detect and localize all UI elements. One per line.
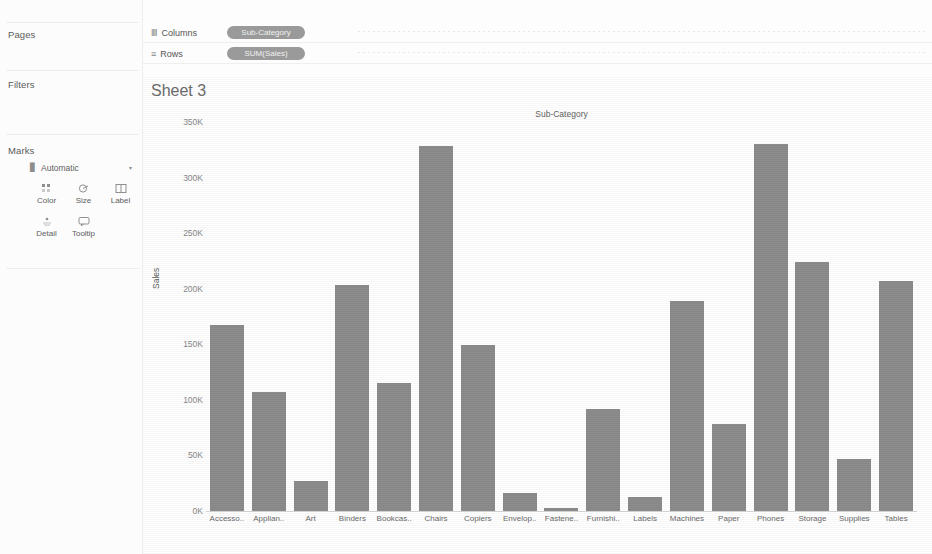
x-axis-label[interactable]: Chairs	[415, 514, 457, 523]
marks-card-title: Marks	[0, 138, 143, 156]
bar-slot[interactable]	[206, 122, 248, 511]
bar-slot[interactable]	[290, 122, 332, 511]
marks-tooltip-label: Tooltip	[72, 229, 95, 239]
bar-slot[interactable]	[331, 122, 373, 511]
x-axis-label[interactable]: Applian..	[248, 514, 290, 523]
y-axis-tick: 350K	[173, 117, 203, 127]
color-icon	[41, 181, 52, 196]
pages-card-title: Pages	[0, 22, 143, 40]
bar[interactable]	[252, 392, 286, 512]
y-axis-title: Sales	[151, 268, 161, 289]
bar-slot[interactable]	[415, 122, 457, 511]
bar-series	[206, 122, 917, 511]
x-axis-label[interactable]: Copiers	[457, 514, 499, 523]
chevron-down-icon: ▾	[129, 164, 134, 171]
x-axis-label[interactable]: Binders	[331, 514, 373, 523]
x-axis-label[interactable]: Furnishi..	[582, 514, 624, 523]
y-axis-tick: 50K	[173, 450, 203, 460]
x-axis-label[interactable]: Supplies	[833, 514, 875, 523]
label-icon	[115, 181, 127, 196]
x-axis-label[interactable]: Bookcas..	[373, 514, 415, 523]
bar[interactable]	[419, 146, 453, 511]
divider	[6, 70, 139, 71]
mark-type-dropdown[interactable]: ▊ Automatic ▾	[30, 160, 134, 175]
bar[interactable]	[795, 262, 829, 511]
x-axis-label[interactable]: Accesso..	[206, 514, 248, 523]
y-axis: 0K50K100K150K200K250K300K350K	[161, 122, 203, 511]
rows-shelf-label: ≡ Rows	[143, 49, 227, 59]
detail-icon	[41, 214, 53, 229]
tableau-worksheet: Pages Filters Marks ▊ Automatic ▾ Color	[0, 0, 932, 554]
shelf-dotted-rule	[358, 31, 926, 32]
bar[interactable]	[837, 459, 871, 511]
bar[interactable]	[628, 497, 662, 511]
plot-area: Accesso..Applian..ArtBindersBookcas..Cha…	[206, 122, 917, 511]
bar[interactable]	[377, 383, 411, 511]
bar-slot[interactable]	[457, 122, 499, 511]
pill-sub-category[interactable]: Sub-Category	[227, 26, 305, 39]
bar-slot[interactable]	[792, 122, 834, 511]
x-axis-label[interactable]: Labels	[624, 514, 666, 523]
bar[interactable]	[294, 481, 328, 511]
bar-slot[interactable]	[582, 122, 624, 511]
marks-row: Detail Tooltip	[28, 211, 140, 244]
bar[interactable]	[503, 493, 537, 511]
y-axis-tick: 0K	[173, 506, 203, 516]
x-axis-label[interactable]: Storage	[792, 514, 834, 523]
bar-slot[interactable]	[750, 122, 792, 511]
rows-icon: ≡	[151, 49, 155, 59]
bar[interactable]	[670, 301, 704, 511]
bar-slot[interactable]	[373, 122, 415, 511]
bar[interactable]	[586, 409, 620, 511]
divider	[6, 268, 139, 269]
columns-shelf[interactable]: ‖‖ Columns Sub-Category	[143, 22, 932, 43]
left-panel: Pages Filters Marks ▊ Automatic ▾ Color	[0, 0, 143, 554]
x-axis-label[interactable]: Phones	[750, 514, 792, 523]
x-axis-label[interactable]: Art	[290, 514, 332, 523]
bar-slot[interactable]	[624, 122, 666, 511]
y-axis-tick: 100K	[173, 395, 203, 405]
bar-slot[interactable]	[875, 122, 917, 511]
bar[interactable]	[754, 144, 788, 511]
bar-slot[interactable]	[666, 122, 708, 511]
bar[interactable]	[461, 345, 495, 511]
marks-tooltip-button[interactable]: Tooltip	[65, 211, 102, 244]
bar[interactable]	[335, 285, 369, 511]
columns-icon: ‖‖	[151, 28, 156, 38]
divider	[6, 134, 139, 135]
bar-slot[interactable]	[499, 122, 541, 511]
marks-detail-button[interactable]: Detail	[28, 211, 65, 244]
bar-slot[interactable]	[541, 122, 583, 511]
shelf-divider	[143, 63, 932, 64]
y-axis-tick: 300K	[173, 173, 203, 183]
bar-slot[interactable]	[248, 122, 290, 511]
x-axis-label[interactable]: Fastene..	[541, 514, 583, 523]
pill-sum-sales[interactable]: SUM(Sales)	[227, 47, 305, 60]
bar-slot[interactable]	[708, 122, 750, 511]
x-axis-label[interactable]: Machines	[666, 514, 708, 523]
marks-label-button[interactable]: Label	[102, 178, 139, 211]
columns-shelf-label: ‖‖ Columns	[143, 28, 227, 38]
x-axis-label[interactable]: Paper	[708, 514, 750, 523]
marks-color-button[interactable]: Color	[28, 178, 65, 211]
marks-size-button[interactable]: Size	[65, 178, 102, 211]
rows-shelf[interactable]: ≡ Rows SUM(Sales)	[143, 43, 932, 64]
filters-card: Filters	[0, 72, 143, 134]
marks-label-label: Label	[111, 196, 131, 206]
page-title: Sheet 3	[151, 82, 206, 100]
bar[interactable]	[210, 325, 244, 511]
tooltip-icon	[78, 214, 90, 229]
bar-mark-icon: ▊	[30, 163, 41, 172]
bar-slot[interactable]	[833, 122, 875, 511]
marks-row: Color Size Label	[28, 178, 140, 211]
mark-type-label: Automatic	[41, 163, 129, 173]
shelf-area: ‖‖ Columns Sub-Category ≡ Rows SUM(Sales…	[143, 22, 932, 74]
x-axis-label[interactable]: Tables	[875, 514, 917, 523]
bar[interactable]	[879, 281, 913, 511]
bar[interactable]	[712, 424, 746, 511]
marks-buttons: Color Size Label	[28, 178, 140, 244]
columns-label-text: Columns	[161, 28, 197, 38]
y-axis-tick: 150K	[173, 339, 203, 349]
x-axis-label[interactable]: Envelop..	[499, 514, 541, 523]
column-field-header-text: Sub-Category	[535, 109, 587, 119]
